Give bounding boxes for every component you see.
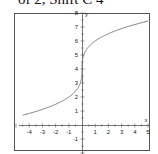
y-tick-label: 2	[75, 94, 79, 100]
x-axis-label: x	[145, 117, 148, 123]
x-tick-label: -3	[40, 129, 46, 135]
y-tick-label: -1	[73, 136, 79, 142]
x-tick-label: 1	[94, 129, 98, 135]
x-tick-label: 2	[107, 129, 111, 135]
x-tick-label: -2	[53, 129, 59, 135]
y-tick-label: 5	[75, 52, 79, 58]
x-tick-label: 4	[133, 129, 137, 135]
y-tick-label: 6	[75, 38, 79, 44]
x-tick-label: -1	[66, 129, 72, 135]
y-tick-label: 1	[75, 108, 79, 114]
function-curve	[23, 21, 148, 115]
x-tick-label: -4	[27, 129, 33, 135]
y-tick-label: 3	[75, 80, 79, 86]
x-tick-label: 3	[120, 129, 124, 135]
y-tick-label: 7	[75, 24, 79, 30]
y-tick-label: 4	[75, 66, 79, 72]
y-axis-label: y	[85, 11, 88, 17]
chart: -4-3-2-112345-112345678xy	[0, 0, 158, 154]
